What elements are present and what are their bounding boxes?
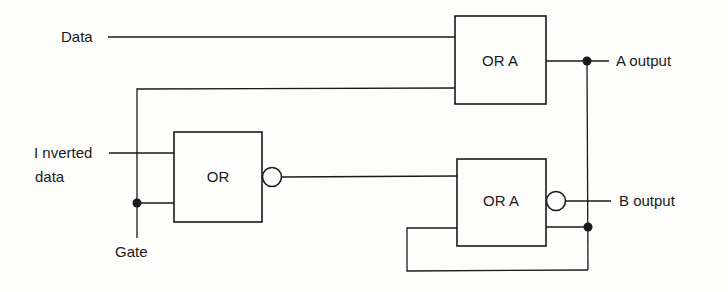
junction-dot-a-output <box>583 57 592 66</box>
label-inverted-data-line1: I nverted <box>34 144 92 161</box>
junction-dot-gate <box>133 199 142 208</box>
wire-left-or-output <box>282 176 457 177</box>
label-b-output: B output <box>619 192 676 209</box>
gate-label: OR A <box>483 192 519 209</box>
inverter-bubble <box>263 168 282 187</box>
gate-label: OR <box>207 168 230 185</box>
wire-a-feedback <box>587 61 588 270</box>
label-gate: Gate <box>115 243 148 260</box>
junction-dot-feedback <box>584 223 593 232</box>
gate-label: OR A <box>482 52 518 69</box>
label-data: Data <box>61 28 93 45</box>
logic-diagram: OR A OR OR A Data I nverted data Gate A … <box>0 0 728 292</box>
label-a-output: A output <box>616 52 672 69</box>
gate-or-a-top: OR A <box>455 16 546 104</box>
gate-or-a-bottom: OR A <box>457 159 566 246</box>
label-inverted-data-line2: data <box>35 168 65 185</box>
gate-or-left: OR <box>174 132 282 222</box>
inverter-bubble <box>547 192 566 211</box>
